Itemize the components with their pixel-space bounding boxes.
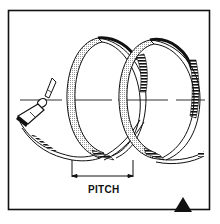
pitch-dimension: [72, 160, 133, 178]
pitch-label: PITCH: [88, 184, 120, 195]
propeller-icon: [16, 78, 56, 127]
corner-triangle-marker: [174, 197, 192, 212]
